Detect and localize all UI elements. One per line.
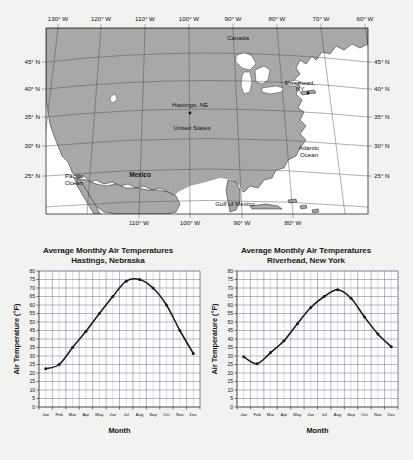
x-tick-label-may: May (95, 412, 104, 417)
chart-right-subtitle: Riverhead, New York (206, 256, 406, 266)
y-tick-label-30: 30 (29, 353, 35, 359)
lon-bottom-label-110w: 110° W (129, 219, 149, 226)
y-axis-title: Air Temperature (°F) (210, 303, 219, 375)
data-point-dec (390, 345, 393, 348)
island-small-2 (300, 205, 307, 209)
x-tick-label-feb: Feb (253, 412, 261, 417)
map-bottom-longitude-axis: 110° W 100° W 90° W 80° W (129, 214, 302, 226)
y-tick-label-75: 75 (227, 276, 233, 282)
x-tick-label-jun: Jun (307, 412, 315, 417)
x-tick-label-apr: Apr (83, 412, 90, 417)
x-tick-label-jun: Jun (109, 412, 117, 417)
lon-label-100w: 100° W (179, 15, 200, 22)
data-point-jun (111, 295, 114, 298)
data-point-apr (84, 330, 87, 333)
x-tick-label-feb: Feb (55, 412, 63, 417)
y-tick-label-5: 5 (32, 395, 35, 401)
data-point-jul (125, 280, 128, 283)
map-top-longitude-axis: 130° W 120° W 110° W 100° W 90° W 80° W … (48, 15, 374, 28)
lon-label-70w: 70° W (313, 15, 330, 22)
chart-right-canvas: 05101520253035404550556065707580JanFebMa… (207, 265, 405, 455)
lat-label-right-45n: 45° N (374, 58, 390, 65)
chart-right-title-block: Average Monthly Air Temperatures Riverhe… (206, 244, 406, 265)
y-tick-label-25: 25 (227, 361, 233, 367)
y-tick-label-65: 65 (29, 293, 35, 299)
y-tick-label-50: 50 (227, 319, 233, 325)
y-tick-label-80: 80 (29, 268, 35, 274)
data-point-oct (363, 316, 366, 319)
data-point-mar (71, 346, 74, 349)
y-tick-label-40: 40 (29, 336, 35, 342)
x-tick-label-nov: Nov (374, 412, 382, 417)
data-point-nov (178, 329, 181, 332)
map-canvas: 130° W 120° W 110° W 100° W 90° W 80° W … (0, 0, 413, 238)
chart-left-canvas: 05101520253035404550556065707580JanFebMa… (9, 265, 207, 455)
x-tick-label-mar: Mar (267, 412, 275, 417)
y-tick-label-25: 25 (29, 361, 35, 367)
lake-michigan (241, 72, 252, 94)
y-tick-label-50: 50 (29, 319, 35, 325)
data-point-jun (309, 306, 312, 309)
data-point-may (296, 322, 299, 325)
meridian-60w (365, 28, 396, 214)
y-tick-label-15: 15 (227, 378, 233, 384)
data-point-dec (192, 352, 195, 355)
y-tick-label-55: 55 (29, 310, 35, 316)
chart-riverhead-new-york: Average Monthly Air Temperatures Riverhe… (206, 244, 406, 460)
data-point-nov (376, 333, 379, 336)
data-point-apr (282, 339, 285, 342)
x-tick-label-dec: Dec (387, 412, 395, 417)
y-tick-label-75: 75 (29, 276, 35, 282)
lon-label-90w: 90° W (225, 15, 242, 22)
y-tick-label-60: 60 (227, 302, 233, 308)
lat-label-right-30n: 30° N (374, 142, 390, 149)
lat-label-left-45n: 45° N (24, 58, 40, 65)
y-tick-label-70: 70 (29, 285, 35, 291)
city-marker-hastings (189, 112, 192, 115)
chart-right-title: Average Monthly Air Temperatures (206, 246, 406, 256)
y-tick-label-10: 10 (227, 387, 233, 393)
y-axis-title: Air Temperature (°F) (12, 303, 21, 375)
place-label-atlantic: Atlantic (299, 144, 319, 151)
x-tick-label-dec: Dec (189, 412, 197, 417)
x-axis-title: Month (108, 426, 131, 435)
y-tick-label-5: 5 (230, 395, 233, 401)
place-label-atlantic-ocean: Ocean (300, 151, 319, 158)
lon-bottom-label-90w: 90° W (234, 219, 251, 226)
x-axis-title: Month (306, 426, 329, 435)
city-marker-riverhead (307, 92, 310, 95)
y-tick-label-65: 65 (227, 293, 233, 299)
data-point-may (98, 312, 101, 315)
map-right-latitude-axis: 45° N 40° N 35° N 30° N 25° N (368, 58, 390, 179)
lat-label-left-40n: 40° N (24, 85, 40, 92)
y-tick-label-70: 70 (227, 285, 233, 291)
y-tick-label-40: 40 (227, 336, 233, 342)
place-label-pacific: Pacific (65, 172, 83, 179)
x-tick-label-jan: Jan (240, 412, 248, 417)
data-point-sep (350, 297, 353, 300)
chart-left-title-block: Average Monthly Air Temperatures Hasting… (8, 244, 208, 265)
x-tick-label-sep: Sep (149, 412, 157, 417)
lon-label-80w: 80° W (269, 15, 286, 22)
place-label-gulf-of-mexico: Gulf of Mexico (215, 200, 255, 207)
chart-hastings-nebraska: Average Monthly Air Temperatures Hasting… (8, 244, 208, 460)
x-tick-label-jul: Jul (123, 412, 129, 417)
lon-label-120w: 120° W (91, 15, 112, 22)
lat-label-right-35n: 35° N (374, 113, 390, 120)
data-point-aug (336, 288, 339, 291)
y-tick-label-0: 0 (32, 404, 35, 410)
chart-left-title: Average Monthly Air Temperatures (8, 246, 208, 256)
y-tick-label-15: 15 (29, 378, 35, 384)
x-tick-label-aug: Aug (334, 412, 342, 417)
lat-label-right-25n: 25° N (374, 172, 390, 179)
x-tick-label-nov: Nov (176, 412, 184, 417)
lon-label-60w: 60° W (357, 15, 374, 22)
lat-label-left-35n: 35° N (24, 113, 40, 120)
data-point-sep (152, 287, 155, 290)
data-point-mar (269, 351, 272, 354)
x-tick-label-oct: Oct (361, 412, 368, 417)
x-tick-label-mar: Mar (69, 412, 77, 417)
chart-left-subtitle: Hastings, Nebraska (8, 256, 208, 266)
lat-label-left-30n: 30° N (24, 142, 40, 149)
lon-label-110w: 110° W (135, 15, 155, 22)
